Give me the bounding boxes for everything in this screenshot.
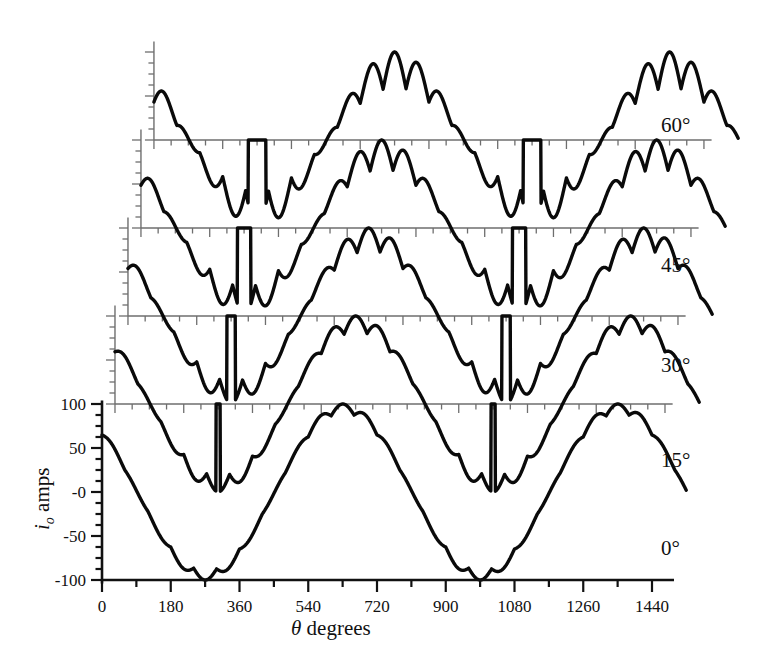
y-tick-label: -50 — [63, 527, 86, 546]
x-tick-label: 1440 — [635, 597, 669, 616]
theta-symbol: θ — [291, 616, 301, 640]
x-tick-label: 180 — [158, 597, 184, 616]
y-tick-label: -0 — [72, 483, 86, 502]
y-axis-unit: amps — [30, 468, 54, 512]
trace-label-15: 15° — [661, 448, 690, 473]
waveform-trace-45 — [141, 140, 725, 306]
y-axis-symbol: i — [30, 524, 54, 530]
x-tick-label: 720 — [364, 597, 390, 616]
y-tick-label: 100 — [61, 395, 87, 414]
waveform-plot: 10050-0-50-10001803605407209001080126014… — [0, 0, 767, 651]
x-tick-label: 0 — [98, 597, 107, 616]
trace-label-30: 30° — [661, 353, 690, 378]
chart-root: 10050-0-50-10001803605407209001080126014… — [0, 0, 767, 651]
y-axis-subscript: o — [42, 517, 57, 524]
y-tick-label: -100 — [55, 571, 86, 590]
x-tick-label: 540 — [296, 597, 322, 616]
axes-layer — [106, 41, 712, 413]
waveform-trace-0 — [102, 404, 686, 580]
trace-label-0: 0° — [661, 536, 680, 561]
x-axis-word: degrees — [307, 616, 371, 640]
x-axis-title: θ degrees — [291, 616, 371, 641]
trace-label-60: 60° — [661, 113, 690, 138]
y-axis-title: io amps — [30, 468, 58, 530]
y-tick-label: 50 — [69, 439, 86, 458]
x-tick-label: 360 — [227, 597, 253, 616]
main-axis-layer: 10050-0-50-10001803605407209001080126014… — [55, 395, 674, 616]
waveform-trace-30 — [128, 228, 712, 400]
trace-label-45: 45° — [661, 253, 690, 278]
x-tick-label: 1260 — [566, 597, 600, 616]
x-tick-label: 1080 — [498, 597, 532, 616]
waveform-trace-60 — [154, 52, 738, 218]
x-tick-label: 900 — [433, 597, 459, 616]
